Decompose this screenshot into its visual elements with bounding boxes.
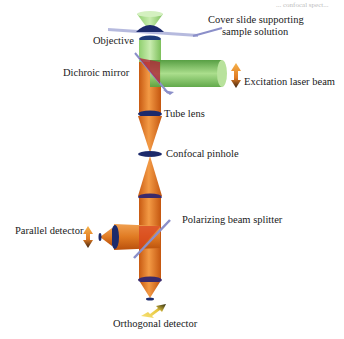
optical-path-drawing <box>0 0 344 339</box>
label-excitation-laser-beam: Excitation laser beam <box>244 76 335 88</box>
label-cover-slide-line1: Cover slide supporting <box>208 14 304 26</box>
diverging-cone <box>138 156 162 196</box>
label-objective: Objective <box>93 35 134 47</box>
label-polarizing-beam-splitter: Polarizing beam splitter <box>182 214 282 226</box>
excitation-laser-beam <box>150 60 227 87</box>
label-tube-lens: Tube lens <box>164 108 205 120</box>
excitation-polarization-arrow <box>231 63 241 88</box>
parallel-polarization-arrow <box>83 226 93 248</box>
label-confocal-pinhole: Confocal pinhole <box>166 148 239 160</box>
orthogonal-polarization-arrow <box>141 304 166 318</box>
converging-cone <box>138 116 162 153</box>
cropped-header-text: ... confocal spect... <box>276 1 328 9</box>
label-dichroic-mirror: Dichroic mirror <box>63 67 129 79</box>
label-parallel-detector: Parallel detector <box>15 225 84 237</box>
confocal-setup-diagram: ... confocal spect... Cover slide suppor… <box>0 0 344 339</box>
label-orthogonal-detector: Orthogonal detector <box>113 318 197 330</box>
label-cover-slide-line2: sample solution <box>222 26 288 38</box>
orthogonal-branch <box>138 277 162 301</box>
parallel-branch-beam <box>99 224 162 250</box>
